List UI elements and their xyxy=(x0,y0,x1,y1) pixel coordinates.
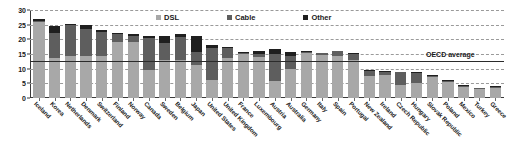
bar-column[interactable] xyxy=(251,10,267,98)
bar-column[interactable] xyxy=(487,10,503,98)
bar-segment-dsl xyxy=(96,56,107,98)
legend-swatch-icon xyxy=(227,15,232,20)
x-label-column: Portugal xyxy=(346,99,362,151)
bar-column[interactable] xyxy=(31,10,47,98)
bar-segment-cable xyxy=(222,48,233,58)
x-label-column: Switzerland xyxy=(94,99,110,151)
bar-column[interactable] xyxy=(188,10,204,98)
legend-item-dsl[interactable]: DSL xyxy=(156,13,179,22)
bar-column[interactable] xyxy=(110,10,126,98)
bar-segment-dsl xyxy=(458,87,469,98)
bar-column[interactable] xyxy=(220,10,236,98)
x-label-column: Denmark xyxy=(78,99,94,151)
bar-column[interactable] xyxy=(173,10,189,98)
bar-segment-dsl xyxy=(128,42,139,98)
bar-stack xyxy=(143,36,154,98)
x-label-column: Finland xyxy=(110,99,126,151)
x-label-column: Norway xyxy=(125,99,141,151)
y-tick-label-25: 25 xyxy=(18,21,26,28)
bar-column[interactable] xyxy=(125,10,141,98)
bar-column[interactable] xyxy=(62,10,78,98)
bar-segment-cable xyxy=(395,72,406,85)
legend-label: DSL xyxy=(164,13,179,22)
x-label-column: New Zealand xyxy=(361,99,377,151)
x-label-column: Italy xyxy=(314,99,330,151)
bar-column[interactable] xyxy=(346,10,362,98)
x-label-column: Iceland xyxy=(31,99,47,151)
bar-segment-cable xyxy=(269,54,280,81)
legend-item-other[interactable]: Other xyxy=(303,13,331,22)
bar-stack xyxy=(269,49,280,98)
x-tick-label: Italy xyxy=(316,100,329,113)
legend-swatch-icon xyxy=(303,15,308,20)
x-label-column: Hungary xyxy=(409,99,425,151)
bar-column[interactable] xyxy=(78,10,94,98)
bar-segment-dsl xyxy=(269,81,280,98)
bar-segment-cable xyxy=(112,34,123,42)
bar-column[interactable] xyxy=(283,10,299,98)
bar-stack xyxy=(206,45,217,98)
bar-column[interactable] xyxy=(393,10,409,98)
bar-column[interactable] xyxy=(141,10,157,98)
x-label-column: Korea xyxy=(47,99,63,151)
bar-column[interactable] xyxy=(204,10,220,98)
bar-segment-dsl xyxy=(143,70,154,98)
x-label-column: Spain xyxy=(330,99,346,151)
bar-column[interactable] xyxy=(409,10,425,98)
bar-segment-cable xyxy=(65,25,76,57)
bar-stack xyxy=(332,51,343,98)
x-tick-mark xyxy=(479,98,480,101)
bar-segment-dsl xyxy=(490,88,501,98)
bar-column[interactable] xyxy=(361,10,377,98)
bar-stack xyxy=(238,52,249,98)
legend-item-cable[interactable]: Cable xyxy=(227,13,255,22)
bar-segment-dsl xyxy=(206,80,217,98)
x-label-column: Canada xyxy=(141,99,157,151)
bar-stack xyxy=(49,26,60,98)
x-label-column: Turkey xyxy=(472,99,488,151)
y-tick-label-10: 10 xyxy=(18,65,26,72)
bar-stack xyxy=(411,72,422,98)
bar-column[interactable] xyxy=(314,10,330,98)
y-tick-label-30: 30 xyxy=(18,7,26,14)
bar-segment-other xyxy=(191,36,202,52)
bar-segment-cable xyxy=(80,29,91,56)
bar-column[interactable] xyxy=(236,10,252,98)
bar-segment-dsl xyxy=(175,60,186,98)
bar-segment-dsl xyxy=(191,65,202,98)
y-tick-label-0: 0 xyxy=(22,95,26,102)
bar-stack xyxy=(96,30,107,98)
bar-segment-dsl xyxy=(285,69,296,98)
bar-segment-cable xyxy=(285,56,296,69)
bar-stack xyxy=(364,70,375,98)
chart-legend: DSLCableOther xyxy=(156,13,331,22)
bar-segment-cable xyxy=(143,38,154,70)
bar-column[interactable] xyxy=(94,10,110,98)
x-tick-label: Greece xyxy=(489,100,508,119)
bar-segment-dsl xyxy=(112,42,123,98)
bar-stack xyxy=(474,88,485,98)
bar-segment-dsl xyxy=(474,89,485,98)
bar-column[interactable] xyxy=(298,10,314,98)
x-axis-labels: IcelandKoreaNetherlandsDenmarkSwitzerlan… xyxy=(30,99,504,151)
bar-stack xyxy=(191,36,202,98)
x-tick-mark xyxy=(416,98,417,101)
bar-column[interactable] xyxy=(330,10,346,98)
bar-column[interactable] xyxy=(267,10,283,98)
bar-segment-dsl xyxy=(395,85,406,98)
bar-stack xyxy=(285,52,296,98)
bar-segment-dsl xyxy=(379,75,390,98)
x-label-column: United States xyxy=(204,99,220,151)
oecd-average-line xyxy=(30,61,504,62)
bar-column[interactable] xyxy=(47,10,63,98)
bar-segment-cable xyxy=(206,48,217,80)
x-label-column: Australia xyxy=(283,99,299,151)
chart-figure: 051015202530 OECD average DSLCableOther … xyxy=(0,0,511,152)
bar-stack xyxy=(159,36,170,98)
bar-column[interactable] xyxy=(377,10,393,98)
bar-stack xyxy=(175,34,186,98)
bar-column[interactable] xyxy=(157,10,173,98)
legend-label: Other xyxy=(311,13,331,22)
plot-area: 051015202530 OECD average xyxy=(30,10,504,98)
x-label-column: Belgium xyxy=(173,99,189,151)
